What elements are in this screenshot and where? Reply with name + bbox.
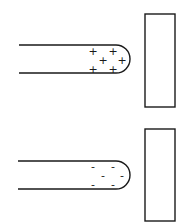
charge-symbol: +: [108, 45, 117, 58]
charge-symbol: +: [98, 54, 107, 67]
conducting-plate-top: [145, 14, 175, 107]
diagram-canvas: + + + + + + - - - - - -: [0, 0, 181, 224]
charge-symbol: -: [91, 178, 95, 191]
charge-symbol: -: [101, 169, 105, 182]
charge-symbol: +: [88, 63, 97, 76]
charge-symbol: +: [117, 54, 126, 67]
charge-symbol: -: [111, 178, 115, 191]
charge-symbol: +: [108, 63, 117, 76]
charge-symbol: +: [88, 45, 97, 58]
charge-symbol: -: [91, 160, 95, 173]
positive-rod-panel: + + + + + +: [19, 14, 175, 107]
charge-symbol: -: [111, 160, 115, 173]
conducting-plate-bottom: [145, 129, 175, 221]
charge-symbol: -: [120, 169, 124, 182]
negative-rod-panel: - - - - - -: [18, 129, 175, 221]
